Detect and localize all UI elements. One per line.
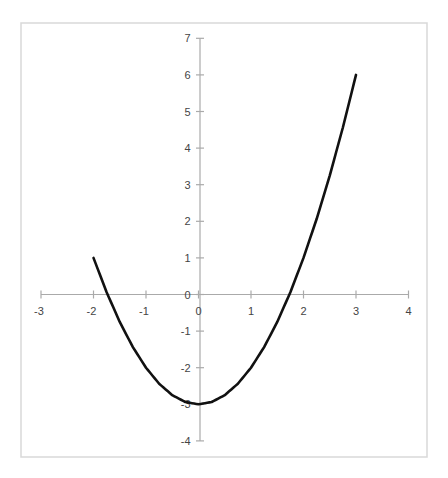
x-tick-label: -1 [139, 305, 149, 317]
x-tick-label: 2 [300, 305, 306, 317]
y-tick-label: -1 [181, 325, 191, 337]
x-tick-label: -2 [87, 305, 97, 317]
y-tick-label: -4 [181, 435, 191, 447]
x-tick-label: 1 [248, 305, 254, 317]
x-tick-label: 3 [353, 305, 359, 317]
chart: -3-2-101234 -4-3-2-101234567 [0, 0, 448, 478]
y-tick-label: 7 [184, 32, 190, 44]
y-tick-label: 0 [184, 289, 190, 301]
y-tick-label: 2 [184, 215, 190, 227]
chart-border [21, 23, 427, 457]
x-tick-label: 0 [195, 305, 201, 317]
y-tick-label: 6 [184, 69, 190, 81]
y-tick-label: 3 [184, 179, 190, 191]
y-tick-label: 4 [184, 142, 190, 154]
x-tick-label: -3 [34, 305, 44, 317]
y-tick-label: 1 [184, 252, 190, 264]
y-tick-label: 5 [184, 106, 190, 118]
x-tick-label: 4 [405, 305, 411, 317]
y-tick-label: -2 [181, 362, 191, 374]
